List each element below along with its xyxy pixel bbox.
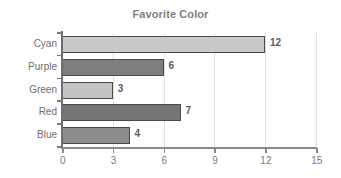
x-axis-label-15: 15 [305, 155, 329, 166]
chart-title: Favorite Color [0, 8, 341, 20]
x-axis-tick [265, 148, 267, 153]
category-label-cyan: Cyan [1, 38, 57, 49]
x-axis-label-3: 3 [102, 155, 126, 166]
x-axis-tick [164, 148, 166, 153]
bar-cyan[interactable] [62, 36, 265, 53]
gridline-12 [265, 33, 266, 147]
bar-value-purple: 6 [169, 60, 175, 71]
bar-green[interactable] [62, 82, 113, 99]
category-label-green: Green [1, 84, 57, 95]
category-label-purple: Purple [1, 61, 57, 72]
gridline-15 [316, 33, 317, 147]
y-axis-labels: Cyan Purple Green Red Blue [0, 33, 57, 147]
bar-value-red: 7 [185, 105, 191, 116]
y-axis-tick [57, 100, 62, 102]
x-axis-label-6: 6 [152, 155, 176, 166]
y-axis-tick [57, 32, 62, 34]
plot-area: 12 6 3 7 4 [62, 33, 316, 147]
bar-value-cyan: 12 [270, 37, 281, 48]
x-axis-label-0: 0 [51, 155, 75, 166]
bar-chart: Favorite Color 12 6 3 7 4 [0, 0, 341, 178]
category-label-blue: Blue [1, 129, 57, 140]
x-axis-tick [316, 148, 318, 153]
y-axis-tick [57, 123, 62, 125]
x-axis-tick [113, 148, 115, 153]
y-axis-tick [57, 55, 62, 57]
x-axis-line [61, 147, 317, 149]
bar-blue[interactable] [62, 127, 130, 144]
x-axis-tick [62, 148, 64, 153]
x-axis-label-9: 9 [203, 155, 227, 166]
y-axis-tick [57, 78, 62, 80]
x-axis-tick [214, 148, 216, 153]
y-axis-line [61, 31, 63, 149]
bar-red[interactable] [62, 104, 181, 121]
bar-value-green: 3 [118, 83, 124, 94]
bar-value-blue: 4 [135, 128, 141, 139]
category-label-red: Red [1, 106, 57, 117]
x-axis-label-12: 12 [254, 155, 278, 166]
bar-purple[interactable] [62, 59, 164, 76]
